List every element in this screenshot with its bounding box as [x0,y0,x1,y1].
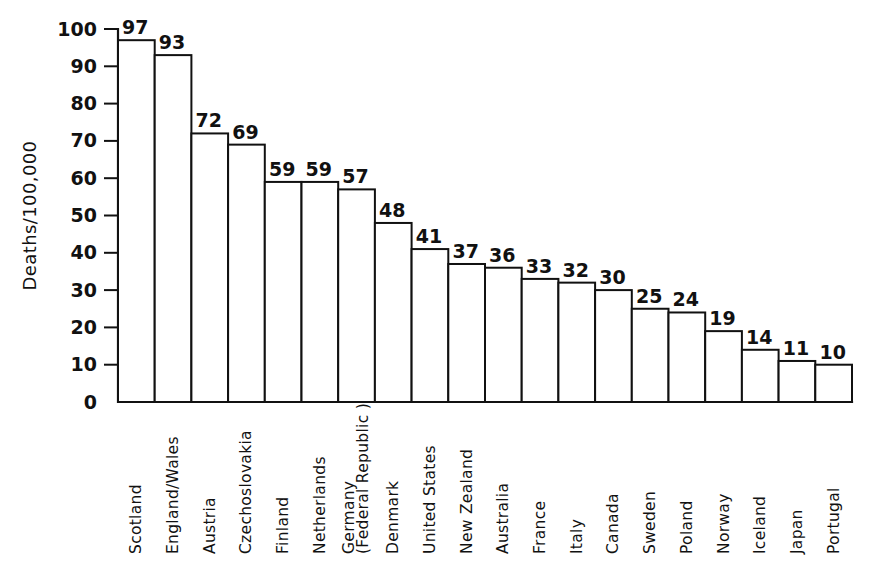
y-tick-label: 20 [71,316,97,338]
bar[interactable] [375,223,412,402]
y-tick-label: 90 [71,55,97,77]
category-label-line: Poland [678,500,696,554]
category-label-line: Finland [274,497,292,555]
bar-value-label: 33 [526,255,552,277]
category-labels-group: ScotlandEngland/WalesAustriaCzechoslovak… [127,403,842,555]
bars-group [118,40,852,402]
bar[interactable] [595,290,632,402]
category-label: Austria [201,497,219,554]
category-label-line: Austria [201,497,219,554]
y-tick-label: 0 [84,391,97,413]
y-tick-label: 60 [71,167,97,189]
bar-value-label: 24 [673,288,699,310]
bar-value-label: 57 [342,165,368,187]
category-label: Sweden [641,491,659,554]
bar-value-label: 72 [196,109,222,131]
category-label-line: England/Wales [164,436,182,554]
bar[interactable] [118,40,155,402]
bar-value-label: 36 [489,244,515,266]
category-label-line: Norway [715,493,733,554]
y-tick-label: 70 [71,129,97,151]
category-label: France [531,501,549,554]
y-tick-label: 40 [71,241,97,263]
category-label: England/Wales [164,436,182,554]
bar[interactable] [705,331,742,402]
category-label-line: New Zealand [458,449,476,554]
category-label-line: Czechoslovakia [237,430,255,554]
bar[interactable] [338,189,375,402]
bar-value-label: 11 [783,337,809,359]
bar[interactable] [191,133,228,402]
bar[interactable] [522,279,559,402]
bar-value-label: 30 [599,266,625,288]
bar-value-label: 48 [379,199,405,221]
category-label-line: Portugal [825,487,843,554]
bar-value-label: 37 [452,240,478,262]
category-label-line: (Federal Republic ) [354,403,372,554]
bar-value-label: 59 [306,158,332,180]
bar-value-label: 41 [416,225,442,247]
bar[interactable] [265,182,302,402]
bar-value-label: 14 [746,326,772,348]
bar[interactable] [485,268,522,402]
category-label: New Zealand [458,449,476,554]
chart-container: 0102030405060708090100Deaths/100,0009793… [0,0,872,573]
category-label-line: Italy [568,519,586,554]
category-label-line: Japan [788,509,806,555]
category-label: Denmark [384,481,402,554]
y-tick-label: 50 [71,204,97,226]
category-label: Japan [788,509,806,555]
category-label: United States [421,445,439,554]
y-axis-title: Deaths/100,000 [19,141,40,291]
bar[interactable] [228,145,265,402]
category-label: Italy [568,519,586,554]
category-label-line: Sweden [641,491,659,554]
y-tick-label: 80 [71,92,97,114]
bar-value-label: 25 [636,285,662,307]
category-label-line: Denmark [384,481,402,554]
bar[interactable] [448,264,485,402]
category-label-line: Australia [494,483,512,554]
bar-chart: 0102030405060708090100Deaths/100,0009793… [0,0,872,573]
bar[interactable] [779,361,816,402]
bar-value-label: 93 [159,31,185,53]
bar-value-label: 32 [563,259,589,281]
bar[interactable] [815,365,852,402]
y-tick-label: 30 [71,279,97,301]
bar-value-label: 69 [232,121,258,143]
bar[interactable] [412,249,449,402]
bar[interactable] [302,182,339,402]
bar-value-label: 10 [819,341,845,363]
bar[interactable] [558,283,595,402]
bar[interactable] [669,312,706,402]
category-label-line: Iceland [751,496,769,554]
y-tick-label: 100 [57,18,97,40]
category-label: Portugal [825,487,843,554]
category-label-line: United States [421,445,439,554]
bar[interactable] [632,309,669,402]
category-label: Germany(Federal Republic ) [340,403,372,554]
category-label: Norway [715,493,733,554]
y-tick-label: 10 [71,353,97,375]
bar-value-label: 59 [269,158,295,180]
category-label: Scotland [127,484,145,554]
y-axis-ticks: 0102030405060708090100 [57,18,118,413]
category-label-line: Scotland [127,484,145,554]
category-label: Poland [678,500,696,554]
category-label-line: Canada [604,493,622,554]
category-label: Netherlands [311,456,329,554]
category-label: Czechoslovakia [237,430,255,554]
category-label: Canada [604,493,622,554]
bar[interactable] [742,350,779,402]
category-label: Iceland [751,496,769,554]
category-label: Australia [494,483,512,554]
category-label: Finland [274,497,292,555]
bar-value-label: 97 [122,16,148,38]
bar[interactable] [155,55,192,402]
bar-value-label: 19 [709,307,735,329]
category-label-line: Netherlands [311,456,329,554]
category-label-line: France [531,501,549,554]
